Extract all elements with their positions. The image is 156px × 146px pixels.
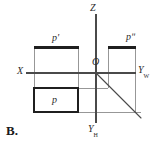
coordinate-axes — [26, 14, 136, 123]
label-axis-yh-subscript: H — [94, 132, 98, 138]
label-axis-z: Z — [90, 3, 96, 13]
label-top-view: p — [52, 95, 57, 105]
bisector-line — [97, 74, 141, 118]
label-axis-yw-base: Y — [138, 64, 144, 75]
diagram-canvas — [0, 0, 156, 146]
label-front-view: p' — [52, 33, 59, 43]
label-axis-yh-base: Y — [88, 123, 94, 134]
label-axis-x: X — [17, 66, 23, 76]
projection-figure: p' pʺ p X Z O YW YH B. — [0, 0, 156, 146]
label-axis-yh: YH — [88, 124, 98, 136]
answer-choice-label: B. — [6, 124, 18, 137]
label-origin: O — [92, 57, 99, 67]
label-side-view: pʺ — [126, 32, 135, 42]
label-axis-yw-subscript: W — [144, 73, 150, 79]
label-axis-yw: YW — [138, 65, 149, 77]
